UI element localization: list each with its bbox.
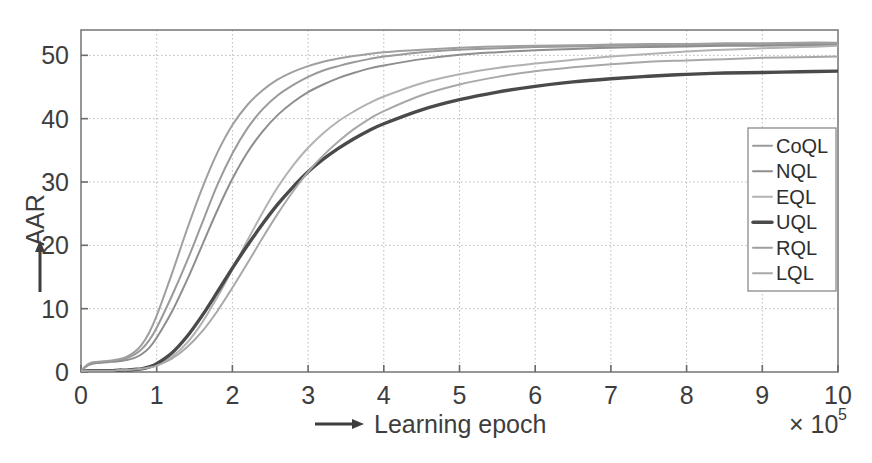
legend-label-nql: NQL xyxy=(776,160,817,182)
line-chart: 01020304050 012345678910 CoQLNQLEQLUQLRQ… xyxy=(0,0,872,463)
x-tick-label: 3 xyxy=(301,381,315,409)
legend-label-rql: RQL xyxy=(776,237,817,259)
x-axis-multiplier: × 10 5 xyxy=(789,406,847,438)
figure-container: 01020304050 012345678910 CoQLNQLEQLUQLRQ… xyxy=(0,0,872,463)
x-tick-label: 4 xyxy=(377,381,391,409)
x-tick-label: 0 xyxy=(74,381,88,409)
legend-label-uql: UQL xyxy=(776,211,817,233)
y-tick-label: 40 xyxy=(41,105,69,133)
x-tick-label: 2 xyxy=(225,381,239,409)
x-tick-label: 6 xyxy=(528,381,542,409)
legend-label-coql: CoQL xyxy=(776,135,828,157)
x-tick-label: 7 xyxy=(604,381,618,409)
legend: CoQLNQLEQLUQLRQLLQL xyxy=(748,128,836,291)
legend-label-eql: EQL xyxy=(776,186,816,208)
x-axis-multiplier-exponent: 5 xyxy=(838,406,847,423)
x-tick-label: 10 xyxy=(824,381,852,409)
x-axis-multiplier-base: × 10 xyxy=(789,410,838,438)
x-axis-title: Learning epoch xyxy=(374,410,546,438)
x-tick-label: 9 xyxy=(755,381,769,409)
x-tick-label: 1 xyxy=(150,381,164,409)
y-tick-label: 0 xyxy=(55,358,69,386)
y-tick-label: 10 xyxy=(41,295,69,323)
y-tick-label: 30 xyxy=(41,168,69,196)
legend-label-lql: LQL xyxy=(776,262,814,284)
y-tick-label: 50 xyxy=(41,41,69,69)
y-axis-title: AAR xyxy=(21,194,49,245)
x-tick-label: 5 xyxy=(453,381,467,409)
chart-background xyxy=(0,0,872,463)
x-tick-label: 8 xyxy=(680,381,694,409)
